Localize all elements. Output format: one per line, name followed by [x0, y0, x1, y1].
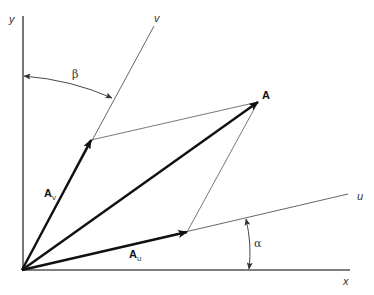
vector-au-label: Au — [129, 248, 141, 263]
vector-au-label-subscript: u — [137, 254, 141, 263]
vector-au-label-main: A — [129, 248, 137, 260]
vector-a-label: A — [262, 89, 270, 101]
vector-av-label-subscript: v — [52, 193, 56, 202]
alpha-label: α — [254, 237, 262, 250]
alpha-angle-arc — [246, 219, 250, 269]
v-axis-label: v — [154, 12, 161, 24]
vector-av-label: Av — [44, 187, 56, 202]
y-axis-label: y — [8, 13, 16, 25]
vector-av — [22, 140, 91, 270]
construction-line-from-au — [187, 102, 258, 232]
u-axis-label: u — [357, 190, 363, 202]
beta-label: β — [72, 68, 78, 81]
vector-av-label-main: A — [44, 187, 52, 199]
x-axis-label: x — [342, 275, 349, 287]
vector-a — [22, 102, 258, 270]
vector-decomposition-diagram: y x v u β α A Av Au — [0, 0, 374, 295]
beta-angle-arc — [24, 76, 112, 98]
